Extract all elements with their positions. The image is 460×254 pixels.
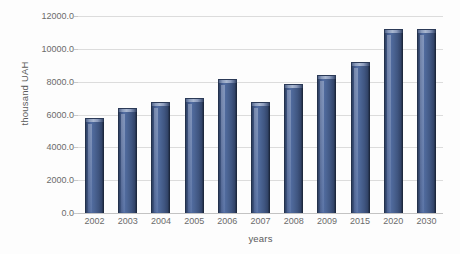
bar-gloss bbox=[254, 108, 258, 212]
axis-baseline bbox=[78, 213, 443, 214]
bar-slot bbox=[178, 16, 211, 213]
bar-gloss bbox=[154, 108, 158, 212]
x-tick-label-2008: 2008 bbox=[277, 216, 310, 226]
bar-chart: 12000.0 10000.0 8000.0 6000.0 4000.0 200… bbox=[0, 0, 460, 254]
x-axis-title: years bbox=[78, 233, 443, 244]
bar-slot bbox=[277, 16, 310, 213]
x-tick-label-2020: 2020 bbox=[377, 216, 410, 226]
bar-gloss bbox=[221, 85, 225, 212]
x-axis-tick-labels: 2002200320042005200620072008200920152020… bbox=[78, 216, 443, 226]
bar-gloss bbox=[320, 81, 324, 212]
x-tick-label-2003: 2003 bbox=[111, 216, 144, 226]
x-tick-label-2004: 2004 bbox=[144, 216, 177, 226]
bar-slot bbox=[410, 16, 443, 213]
bar-top-cap bbox=[351, 62, 370, 66]
y-tick-label: 0.0 bbox=[18, 208, 74, 218]
bar-2003[interactable] bbox=[118, 111, 137, 213]
bar-top-cap bbox=[417, 29, 436, 33]
y-axis-title: thousand UAH bbox=[19, 24, 30, 164]
bar-top-cap bbox=[218, 79, 237, 83]
bar-slot bbox=[377, 16, 410, 213]
bar-top-cap bbox=[251, 102, 270, 106]
x-tick-label-2009: 2009 bbox=[310, 216, 343, 226]
bar-gloss bbox=[88, 124, 92, 212]
bar-2015[interactable] bbox=[351, 65, 370, 213]
bar-slot bbox=[310, 16, 343, 213]
bar-top-cap bbox=[317, 75, 336, 79]
bar-slot bbox=[344, 16, 377, 213]
bar-slot bbox=[144, 16, 177, 213]
bar-2005[interactable] bbox=[185, 101, 204, 213]
bar-top-cap bbox=[284, 84, 303, 88]
x-tick-label-2015: 2015 bbox=[344, 216, 377, 226]
bar-2002[interactable] bbox=[85, 121, 104, 213]
x-tick-label-2006: 2006 bbox=[211, 216, 244, 226]
bar-gloss bbox=[354, 68, 358, 212]
bar-slot bbox=[211, 16, 244, 213]
bar-slot bbox=[244, 16, 277, 213]
bar-2009[interactable] bbox=[317, 78, 336, 213]
y-tick-label: 12000.0 bbox=[18, 11, 74, 21]
x-tick-label-2007: 2007 bbox=[244, 216, 277, 226]
x-tick-label-2030: 2030 bbox=[410, 216, 443, 226]
bar-slot bbox=[111, 16, 144, 213]
x-tick-label-2002: 2002 bbox=[78, 216, 111, 226]
bar-gloss bbox=[387, 35, 391, 212]
bar-2004[interactable] bbox=[151, 105, 170, 213]
bar-gloss bbox=[188, 104, 192, 212]
bar-gloss bbox=[121, 114, 125, 212]
bar-top-cap bbox=[85, 118, 104, 122]
bar-2008[interactable] bbox=[284, 87, 303, 213]
bar-top-cap bbox=[185, 98, 204, 102]
bar-2020[interactable] bbox=[384, 32, 403, 213]
bar-top-cap bbox=[151, 102, 170, 106]
bar-slot bbox=[78, 16, 111, 213]
bar-top-cap bbox=[384, 29, 403, 33]
plot-area bbox=[78, 16, 443, 213]
bar-top-cap bbox=[118, 108, 137, 112]
y-tick-label: 2000.0 bbox=[18, 175, 74, 185]
bar-2006[interactable] bbox=[218, 82, 237, 213]
bar-series bbox=[78, 16, 443, 213]
bar-2007[interactable] bbox=[251, 105, 270, 213]
bar-gloss bbox=[287, 90, 291, 212]
x-tick-label-2005: 2005 bbox=[178, 216, 211, 226]
bar-gloss bbox=[420, 35, 424, 212]
y-axis-tickmark bbox=[74, 213, 78, 214]
bar-2030[interactable] bbox=[417, 32, 436, 213]
